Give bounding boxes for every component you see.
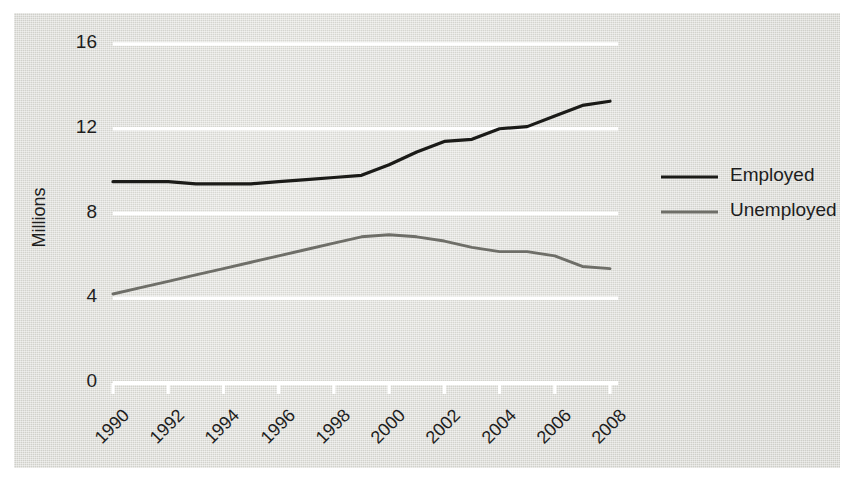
series-line-unemployed — [113, 235, 610, 294]
chart-figure: Millions 0 4 8 12 16 1990 1992 1994 1996… — [0, 0, 858, 494]
series-line-employed — [113, 101, 610, 184]
gridlines-group — [113, 44, 618, 383]
chart-plot-area — [0, 0, 858, 494]
legend-swatches-group — [661, 177, 718, 212]
